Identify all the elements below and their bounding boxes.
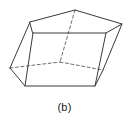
top-face-pentagon: [30, 10, 122, 33]
figure-container: (b): [0, 0, 129, 119]
bottom-front-edges: [10, 68, 103, 86]
lateral-edge-front-left: [25, 33, 33, 86]
hidden-bottom-edge-back-left-to-apex: [10, 62, 60, 68]
hidden-lateral-edge-apex: [60, 10, 75, 62]
oblique-pentagonal-prism-diagram: [0, 0, 129, 96]
visible-edges-group: [10, 10, 122, 86]
figure-caption: (b): [0, 96, 129, 119]
hidden-edges-group: [10, 10, 103, 70]
lateral-edge-back-right: [103, 24, 122, 70]
lateral-edge-front-right: [95, 33, 106, 86]
lateral-edge-back-left: [10, 22, 30, 68]
hidden-bottom-edge-apex-to-back-right: [60, 62, 103, 70]
